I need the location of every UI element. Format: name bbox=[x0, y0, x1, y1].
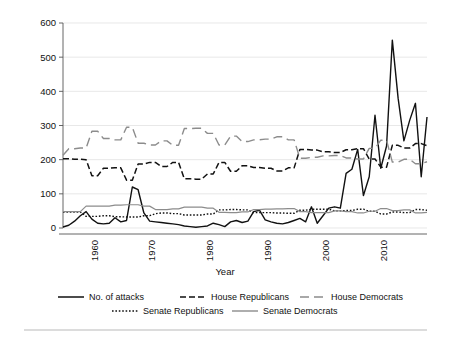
data-series-group bbox=[63, 40, 427, 227]
x-axis-tick-labels: 196019701980199020002010 bbox=[89, 240, 389, 261]
x-axis-title: Year bbox=[215, 266, 234, 277]
y-tick-label-600: 600 bbox=[40, 17, 56, 28]
y-axis-ticks bbox=[59, 23, 63, 228]
y-tick-label-300: 300 bbox=[40, 120, 56, 131]
x-tick-label-1990: 1990 bbox=[262, 240, 273, 261]
chart-figure: 0100200300400500600 19601970198019902000… bbox=[0, 0, 450, 341]
grid-lines bbox=[63, 23, 427, 228]
legend-label-senate-democrats: Senate Democrats bbox=[263, 306, 338, 316]
legend-label-senate-republicans: Senate Republicans bbox=[143, 306, 224, 316]
legend-label-house-democrats: House Democrats bbox=[331, 292, 404, 302]
x-tick-label-2010: 2010 bbox=[378, 240, 389, 261]
x-tick-label-1960: 1960 bbox=[89, 240, 100, 261]
legend-label-house-republicans: House Republicans bbox=[211, 292, 290, 302]
chart-legend: No. of attacksHouse RepublicansHouse Dem… bbox=[58, 292, 404, 316]
y-tick-label-200: 200 bbox=[40, 154, 56, 165]
x-tick-label-2000: 2000 bbox=[320, 240, 331, 261]
y-tick-label-0: 0 bbox=[51, 222, 56, 233]
series-line-no-of-attacks bbox=[63, 40, 427, 227]
series-line-senate-republicans bbox=[63, 209, 427, 217]
y-axis-tick-labels: 0100200300400500600 bbox=[40, 17, 56, 233]
legend-label-no-of-attacks: No. of attacks bbox=[89, 292, 145, 302]
y-tick-label-400: 400 bbox=[40, 86, 56, 97]
chart-canvas: 0100200300400500600 19601970198019902000… bbox=[0, 0, 450, 341]
y-tick-label-500: 500 bbox=[40, 52, 56, 63]
x-tick-label-1970: 1970 bbox=[146, 240, 157, 261]
x-tick-label-1980: 1980 bbox=[204, 240, 215, 261]
series-line-senate-democrats bbox=[63, 205, 427, 213]
y-tick-label-100: 100 bbox=[40, 188, 56, 199]
